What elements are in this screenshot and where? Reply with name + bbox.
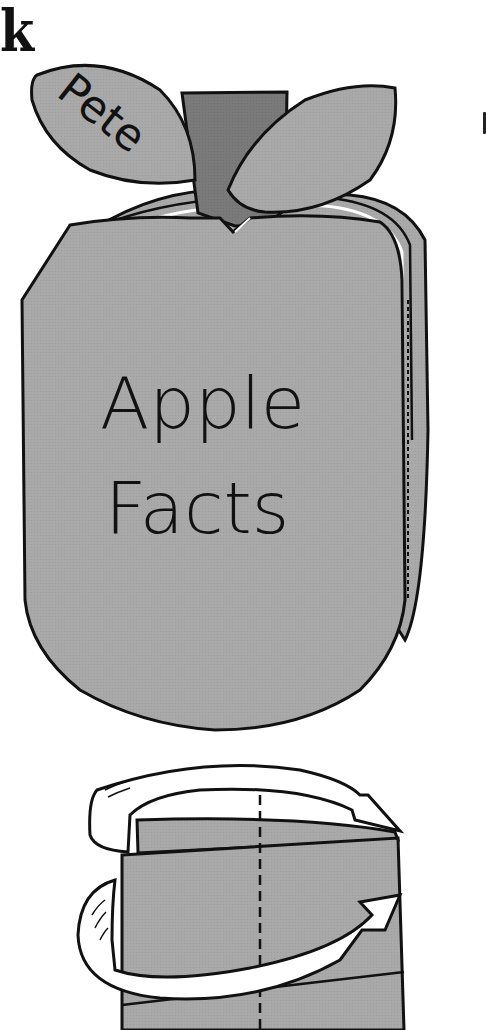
cover-title-line1: Apple [100, 361, 305, 445]
fold-diagram [78, 766, 404, 1030]
cover-title-line2: Facts [105, 466, 289, 550]
